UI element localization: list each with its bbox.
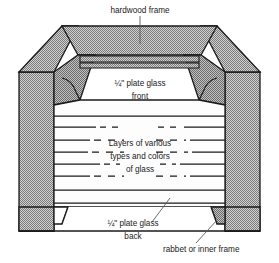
label-layers-line3: of glass	[126, 165, 154, 174]
figure-root: hardwood frame ¼" plate glass front Laye…	[0, 0, 279, 263]
top-inner-band-lower	[80, 63, 199, 68]
label-rabbet-inner-frame: rabbet or inner frame	[163, 245, 240, 254]
frame-body-group	[19, 26, 260, 231]
bottom-left-leg	[19, 207, 54, 231]
label-hardwood-frame: hardwood frame	[110, 6, 170, 15]
top-rail	[62, 26, 217, 55]
bottom-right-leg	[225, 207, 260, 231]
label-plate-glass-back-line2: back	[124, 232, 142, 241]
label-plate-glass-front-line1: ¼" plate glass	[114, 79, 165, 88]
label-plate-glass-front-line2: front	[132, 92, 149, 101]
label-plate-glass-back-line1: ¼" plate glass	[107, 219, 158, 228]
glass-panel-cutaway-diagram: hardwood frame ¼" plate glass front Laye…	[0, 0, 279, 263]
label-layers-line1: Layers of various	[109, 139, 171, 148]
label-layers-line2: types and colors	[110, 152, 170, 161]
top-inner-band-upper	[80, 56, 199, 62]
